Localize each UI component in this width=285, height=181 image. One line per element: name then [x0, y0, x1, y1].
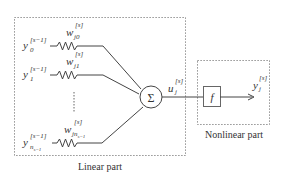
input-1-y-sup: [s−1] — [30, 65, 47, 73]
sigma-symbol: Σ — [148, 91, 155, 105]
input-0-y-sub: 0 — [30, 46, 34, 54]
output-label: y — [252, 79, 258, 91]
output-label-sup: [s] — [259, 74, 267, 82]
input-1: y 1 [s−1] w j1 [s] — [22, 50, 139, 94]
nonlinear-part-label: Nonlinear part — [205, 129, 263, 140]
linear-part-label: Linear part — [78, 161, 122, 172]
resistor-line-1 — [50, 71, 139, 94]
input-n-y-sub: ns−1 — [30, 143, 41, 152]
weight-n-sub: jns−1 — [71, 130, 85, 139]
input-n-y-label: y — [22, 136, 28, 148]
weight-1-sub: j1 — [73, 62, 79, 70]
neuron-diagram: y 0 [s−1] w j0 [s] y 1 [s−1] w j1 [s] y … — [0, 0, 285, 181]
input-0-y-label: y — [22, 39, 28, 51]
weight-0-label: w — [66, 26, 74, 38]
input-1-y-label: y — [22, 68, 28, 80]
u-label-sub: j — [174, 88, 177, 96]
u-label-sup: [s] — [175, 77, 183, 85]
output-label-sub: j — [258, 85, 261, 93]
u-label: u — [168, 82, 174, 94]
resistor-line-0 — [50, 42, 141, 89]
input-0-y-sup: [s−1] — [30, 36, 47, 44]
weight-0-sub: j0 — [73, 33, 80, 41]
input-1-y-sub: 1 — [30, 75, 34, 83]
input-n: y ns−1 [s−1] w jns−1 [s] — [22, 107, 143, 152]
weight-1-label: w — [66, 55, 74, 67]
weight-n-label: w — [64, 123, 72, 135]
weight-n-sup: [s] — [74, 118, 82, 126]
input-n-y-sup: [s−1] — [30, 132, 47, 140]
weight-1-sup: [s] — [75, 50, 83, 58]
weight-0-sup: [s] — [75, 21, 83, 29]
